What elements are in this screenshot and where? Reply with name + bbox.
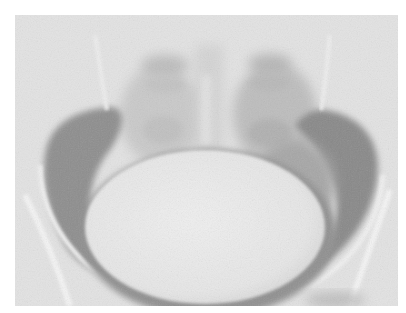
- xray-image: [15, 15, 398, 306]
- pelvic-radiograph: [15, 15, 398, 306]
- film-grain: [15, 15, 398, 306]
